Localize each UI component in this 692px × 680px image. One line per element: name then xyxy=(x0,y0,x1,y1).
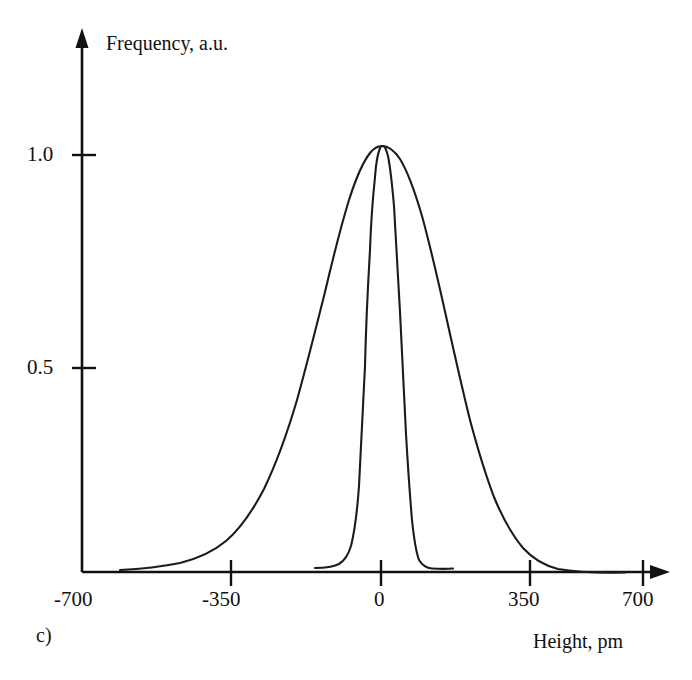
y-axis-label: Frequency, a.u. xyxy=(106,33,228,53)
y-axis-ticks xyxy=(72,155,96,368)
x-axis-arrow-icon xyxy=(650,565,670,579)
y-tick-label-1-0: 1.0 xyxy=(27,144,53,165)
panel-label: c) xyxy=(36,625,52,645)
curve-narrow-distribution xyxy=(315,146,453,569)
plot-canvas xyxy=(0,0,692,680)
x-tick-label-350: 350 xyxy=(508,589,540,610)
y-axis xyxy=(76,28,89,572)
x-tick-label-minus-700: -700 xyxy=(54,589,93,610)
x-axis-label: Height, pm xyxy=(533,631,623,651)
x-tick-label-minus-350: -350 xyxy=(202,589,241,610)
figure-panel: Frequency, a.u. Height, pm c) 1.0 0.5 -7… xyxy=(0,0,692,680)
y-axis-arrow-icon xyxy=(76,28,89,48)
y-tick-label-0-5: 0.5 xyxy=(27,357,53,378)
x-tick-label-700: 700 xyxy=(622,589,654,610)
x-tick-label-0: 0 xyxy=(374,589,385,610)
